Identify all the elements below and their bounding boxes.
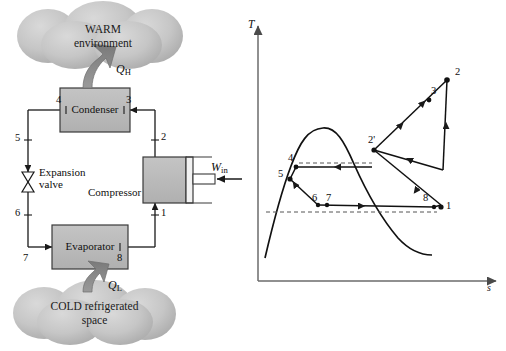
qh-label: QH: [116, 62, 131, 77]
dashed-pressure-lines: [266, 163, 437, 212]
ts-axes: [258, 26, 496, 281]
ts-y-axis-label: T: [248, 18, 254, 30]
schematic-state-4: 4: [56, 94, 61, 105]
ts-label-2prime: 2': [368, 134, 375, 145]
ts-x-axis-label: s: [487, 282, 491, 293]
ts-point-4: [294, 165, 299, 170]
win-label: Win: [211, 160, 228, 175]
saturation-dome-curve: [265, 128, 432, 258]
ts-label-7: 7: [326, 192, 331, 203]
ts-label-2: 2: [455, 66, 460, 77]
ts-point-7: [325, 203, 329, 207]
ql-label: QL: [108, 278, 122, 293]
evaporator-label: Evaporator: [52, 240, 128, 252]
schematic-state-6: 6: [15, 207, 20, 218]
cold-refrigerated-space-label: COLD refrigerated space: [22, 299, 167, 328]
ts-point-5: [287, 176, 292, 181]
ts-label-6: 6: [312, 192, 317, 203]
compressor-label: Compressor: [88, 186, 154, 198]
schematic-state-1: 1: [161, 207, 166, 218]
ts-point-3: [427, 98, 432, 103]
ts-label-1: 1: [446, 200, 451, 211]
schematic-state-8: 8: [117, 252, 122, 263]
ts-point-2: [444, 77, 450, 83]
expansion-valve-symbol: [22, 172, 34, 192]
ts-label-4: 4: [288, 152, 293, 163]
ts-diagram-svg: [250, 0, 506, 351]
ts-point-6: [316, 203, 320, 207]
ts-point-2prime: [371, 147, 376, 152]
ts-point-1: [438, 204, 443, 209]
upper-cycle-path: [290, 80, 447, 179]
warm-environment-label: WARM environment: [48, 22, 158, 51]
ts-point-8: [432, 205, 436, 209]
ts-label-8: 8: [423, 192, 428, 203]
ts-label-3: 3: [431, 85, 436, 96]
condenser-label: Condenser: [60, 103, 130, 115]
schematic-state-5: 5: [15, 132, 20, 143]
schematic-state-2: 2: [161, 131, 166, 142]
expansion-valve-label: Expansion valve: [39, 166, 85, 191]
schematic-state-3: 3: [126, 94, 131, 105]
schematic-state-7: 7: [23, 252, 28, 263]
figure-root: WARM environment COLD refrigerated space…: [0, 0, 506, 351]
ts-label-5: 5: [278, 168, 283, 179]
